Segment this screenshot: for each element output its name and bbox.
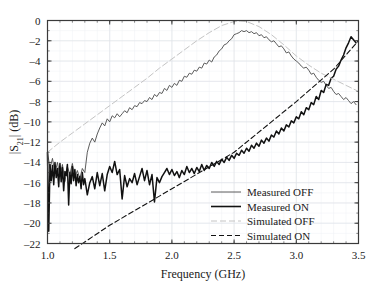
x-axis-title: Frequency (GHz) <box>161 267 245 281</box>
y-tick-label: 0 <box>35 15 41 27</box>
y-tick-label: –4 <box>29 55 42 67</box>
x-tick-label: 1.0 <box>41 249 55 261</box>
y-tick-label: –18 <box>23 197 41 209</box>
x-tick-label: 2.5 <box>227 249 241 261</box>
legend-label: Simulated OFF <box>247 215 315 227</box>
x-tick-label: 3.5 <box>352 249 366 261</box>
y-tick-label: –14 <box>23 156 41 168</box>
y-tick-label: –22 <box>23 238 41 250</box>
legend-label: Measured ON <box>247 201 309 213</box>
x-tick-label: 2.0 <box>165 249 179 261</box>
chart-plot: 1.01.52.02.53.03.5 0–2–4–6–8–10–12–14–16… <box>0 0 376 293</box>
x-tick-label: 3.0 <box>289 249 303 261</box>
y-tick-label: –12 <box>23 136 41 148</box>
y-tick-label: –10 <box>23 116 41 128</box>
y-tick-label: –20 <box>23 217 41 229</box>
figure-background <box>0 0 376 293</box>
figure-container: 1.01.52.02.53.03.5 0–2–4–6–8–10–12–14–16… <box>0 0 376 293</box>
y-tick-label: –6 <box>29 75 42 87</box>
y-tick-label: –2 <box>29 35 41 47</box>
y-tick-label: –8 <box>29 96 42 108</box>
x-tick-label: 1.5 <box>103 249 117 261</box>
legend-label: Simulated ON <box>247 230 310 242</box>
legend-label: Measured OFF <box>247 186 313 198</box>
y-tick-label: –16 <box>23 177 41 189</box>
